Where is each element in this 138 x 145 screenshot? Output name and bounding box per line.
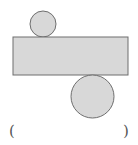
rectangle [13, 37, 128, 75]
cylinder-net-diagram [0, 0, 138, 145]
answer-open-paren: ( [9, 124, 15, 139]
small-circle [30, 11, 56, 37]
answer-close-paren: ) [123, 124, 129, 139]
large-circle [71, 75, 114, 118]
